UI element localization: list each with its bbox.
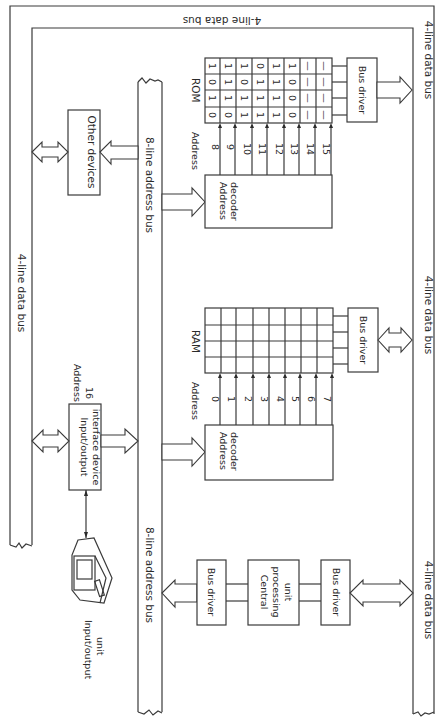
svg-text:1: 1 <box>271 112 282 118</box>
ram-address-2: 2 <box>243 396 254 402</box>
svg-text:0: 0 <box>239 79 250 85</box>
svg-text:0: 0 <box>223 112 234 118</box>
rom-address-13: 13 <box>289 143 300 155</box>
ram-address-6: 6 <box>306 396 317 402</box>
svg-text:0: 0 <box>287 79 298 85</box>
svg-text:1: 1 <box>255 79 266 85</box>
svg-text:0: 0 <box>287 95 298 101</box>
rom-address-11: 11 <box>257 143 268 155</box>
svg-text:0: 0 <box>255 63 266 69</box>
data-bus-top-label: 4-line data bus <box>183 15 262 27</box>
svg-text:1: 1 <box>287 63 298 69</box>
rom-address-8: 8 <box>210 144 221 150</box>
rom-address-14: 14 <box>305 143 316 155</box>
ram-address-4: 4 <box>275 396 286 402</box>
data-bus-right-middle-label: 4-line data bus <box>423 276 435 355</box>
svg-text:1: 1 <box>239 63 250 69</box>
ram-title: RAM <box>190 330 202 353</box>
io-address-arrow <box>101 429 138 453</box>
rom-address-arrowheads <box>218 123 333 128</box>
svg-text:—: — <box>319 77 330 87</box>
rom-section: Address decoder Address 8 9 10 11 <box>162 58 412 228</box>
rom-address-label: Address <box>190 132 201 170</box>
svg-text:0: 0 <box>207 112 218 118</box>
ram-section: Address decoder Address 0 1 2 3 4 <box>162 308 412 480</box>
rom-address-15: 15 <box>321 143 332 155</box>
rom-decoder-arrow <box>162 188 205 216</box>
svg-text:1: 1 <box>223 79 234 85</box>
ram-address-3: 3 <box>259 396 270 402</box>
cpu-address-arrow <box>162 580 197 607</box>
rom-address-10: 10 <box>242 143 253 155</box>
data-bus-right-lower-label: 4-line data bus <box>423 561 435 640</box>
data-bus-right-upper-label: 4-line data bus <box>423 21 435 100</box>
other-devices-address-arrow <box>100 141 138 164</box>
svg-text:1: 1 <box>223 95 234 101</box>
cpu-label-1: Central <box>259 575 270 610</box>
rom-address-12: 12 <box>274 143 285 155</box>
svg-text:1: 1 <box>239 112 250 118</box>
ram-decoder-arrow <box>162 438 205 466</box>
rom-data-arrow <box>377 77 412 103</box>
other-devices-label: Other devices <box>86 115 98 188</box>
io-interface-section: Input/output interface device Address 16 <box>32 364 138 538</box>
rom-title: ROM <box>190 78 202 103</box>
cpu-label-3: unit <box>283 583 294 602</box>
svg-text:1: 1 <box>271 95 282 101</box>
data-bus-left-label: 4-line data bus <box>16 254 28 333</box>
ram-address-0: 0 <box>210 396 221 402</box>
io-unit-label-2: unit <box>95 637 106 656</box>
svg-text:—: — <box>303 110 314 120</box>
svg-text:—: — <box>303 61 314 71</box>
other-devices-block: Other devices <box>32 110 138 195</box>
ram-bus-driver-label: Bus driver <box>358 316 369 365</box>
address-bus-upper-label: 8-line address bus <box>144 137 156 233</box>
cpu-label-2: processing <box>271 566 282 617</box>
io-data-double-arrow <box>32 430 69 452</box>
ram-address-label: Address <box>190 382 201 420</box>
svg-text:—: — <box>303 77 314 87</box>
rom-bus-driver-label: Bus driver <box>357 66 368 115</box>
address-bus-lower-label: 8-line address bus <box>144 527 156 623</box>
svg-text:0: 0 <box>287 112 298 118</box>
rom-address-9: 9 <box>225 144 236 150</box>
ram-address-1: 1 <box>226 396 237 402</box>
svg-text:—: — <box>319 93 330 103</box>
other-devices-data-arrow <box>32 142 68 162</box>
io-address-label: Address <box>72 364 83 402</box>
ram-data-double-arrow <box>378 328 412 352</box>
io-interface-label-1: Input/output <box>79 417 90 476</box>
svg-text:1: 1 <box>207 63 218 69</box>
microcomputer-block-diagram: Other devices Address decoder <box>0 0 447 721</box>
svg-text:1: 1 <box>223 63 234 69</box>
svg-text:—: — <box>303 93 314 103</box>
io-unit-terminal-icon <box>72 538 112 603</box>
svg-text:—: — <box>319 61 330 71</box>
rom-decoder-label-2: decoder <box>229 182 240 221</box>
cpu-section: Bus driver Central processing unit Bus d… <box>162 560 413 625</box>
io-address-value: 16 <box>84 387 95 399</box>
ram-decoder-label-1: Address <box>218 432 229 470</box>
rom-decoder-label-1: Address <box>218 182 229 220</box>
svg-text:1: 1 <box>271 63 282 69</box>
svg-text:1: 1 <box>255 112 266 118</box>
io-unit-label-1: Input/output <box>83 620 94 679</box>
io-interface-label-2: interface device <box>91 409 102 486</box>
cpu-address-bus-driver-label: Bus driver <box>206 568 217 617</box>
svg-text:—: — <box>319 110 330 120</box>
ram-address-5: 5 <box>290 396 301 402</box>
cpu-data-double-arrow <box>350 580 413 606</box>
svg-text:1: 1 <box>239 95 250 101</box>
cpu-data-bus-driver-label: Bus driver <box>331 568 342 617</box>
svg-text:0: 0 <box>207 79 218 85</box>
svg-text:1: 1 <box>207 95 218 101</box>
svg-text:1: 1 <box>271 79 282 85</box>
ram-address-7: 7 <box>322 396 333 402</box>
ram-decoder-label-2: decoder <box>229 432 240 471</box>
svg-text:1: 1 <box>255 95 266 101</box>
